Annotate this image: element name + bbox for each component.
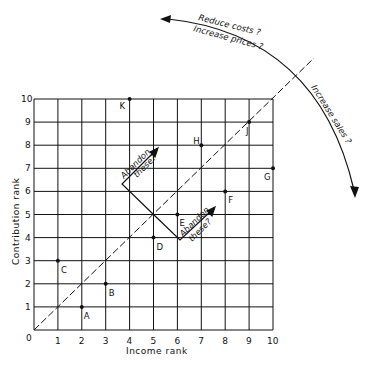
- x-tick-label: 0: [26, 333, 32, 343]
- point-label: C: [61, 265, 67, 275]
- y-tick-label: 9: [25, 117, 31, 127]
- x-axis-label: Income rank: [126, 346, 188, 356]
- y-tick-label: 5: [25, 210, 31, 220]
- arc-arrowhead-left: [160, 15, 171, 23]
- ranking-chart: 12345678910 012345678910 Income rank Con…: [0, 0, 371, 365]
- x-axis-ticks: 012345678910: [26, 333, 279, 346]
- x-tick-label: 6: [174, 336, 180, 346]
- x-tick-label: 3: [103, 336, 109, 346]
- x-tick-label: 7: [198, 336, 204, 346]
- x-tick-label: 1: [55, 336, 61, 346]
- arc-label-increase-sales: Increase sales ?: [309, 83, 354, 146]
- x-tick-label: 10: [267, 336, 279, 346]
- point-label: K: [120, 101, 126, 111]
- point-label: D: [157, 242, 164, 252]
- y-tick-label: 8: [25, 140, 31, 150]
- y-tick-label: 7: [25, 163, 31, 173]
- y-tick-label: 4: [25, 233, 31, 243]
- y-tick-label: 3: [25, 256, 31, 266]
- y-tick-label: 10: [21, 94, 33, 104]
- y-axis-ticks: 12345678910: [21, 94, 33, 312]
- point-label: H: [193, 136, 199, 146]
- x-tick-label: 9: [246, 336, 252, 346]
- y-tick-label: 2: [25, 279, 31, 289]
- x-tick-label: 2: [79, 336, 85, 346]
- data-points: ABCDEFGHJK: [56, 97, 275, 321]
- arc-arrowhead-down: [350, 186, 359, 198]
- y-tick-label: 6: [25, 186, 31, 196]
- y-axis-label: Contribution rank: [11, 177, 21, 265]
- y-tick-label: 1: [25, 302, 31, 312]
- point-label: G: [264, 172, 271, 182]
- point-label: F: [228, 195, 233, 205]
- point-label: B: [109, 288, 115, 298]
- point-label: J: [245, 126, 249, 136]
- x-tick-label: 5: [151, 336, 157, 346]
- x-tick-label: 8: [222, 336, 228, 346]
- point-label: A: [84, 311, 90, 321]
- x-tick-label: 4: [127, 336, 133, 346]
